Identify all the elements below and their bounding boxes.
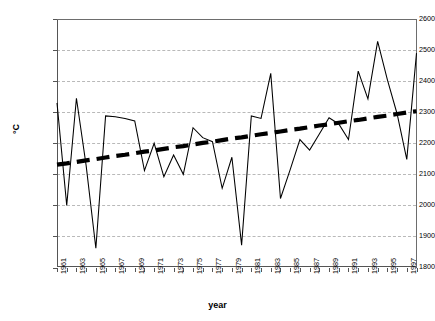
chart-figure: 180019002000210022002300240025002600 °C … [0, 0, 435, 321]
data-layer [0, 0, 435, 321]
series-line-annual-value [57, 41, 417, 248]
series-line-linear-trend [57, 111, 417, 164]
